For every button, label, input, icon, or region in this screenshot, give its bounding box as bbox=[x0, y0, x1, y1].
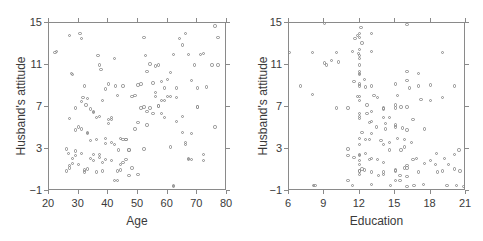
data-point bbox=[160, 112, 163, 115]
data-point bbox=[202, 52, 205, 55]
data-point bbox=[443, 157, 446, 160]
data-point bbox=[441, 51, 444, 54]
data-point bbox=[364, 152, 367, 155]
x-tick-top bbox=[430, 18, 431, 22]
data-point bbox=[351, 50, 354, 53]
x-tick-label: 9 bbox=[320, 197, 326, 209]
data-point bbox=[163, 116, 166, 119]
x-tick-bottom bbox=[288, 190, 289, 194]
data-point bbox=[436, 170, 439, 173]
data-point bbox=[394, 169, 397, 172]
data-point bbox=[364, 138, 367, 141]
x-tick-label: 21 bbox=[459, 197, 471, 209]
data-point bbox=[71, 73, 74, 76]
data-point bbox=[80, 37, 83, 40]
data-point bbox=[405, 128, 408, 131]
data-point bbox=[101, 169, 104, 172]
data-point bbox=[169, 95, 172, 98]
data-point bbox=[358, 137, 361, 140]
data-point bbox=[95, 170, 98, 173]
data-point bbox=[119, 168, 122, 171]
data-point bbox=[388, 141, 391, 144]
x-tick-bottom bbox=[196, 190, 197, 194]
data-point bbox=[148, 62, 151, 65]
y-tick-right bbox=[226, 148, 230, 149]
data-point bbox=[462, 185, 464, 188]
data-point bbox=[213, 125, 216, 128]
y-tick-left bbox=[284, 148, 288, 149]
data-point bbox=[384, 122, 387, 125]
data-point bbox=[415, 157, 418, 160]
x-tick-label: 12 bbox=[353, 197, 365, 209]
data-point bbox=[116, 179, 119, 182]
data-point bbox=[104, 158, 107, 161]
data-point bbox=[83, 170, 86, 173]
data-point bbox=[81, 96, 84, 99]
data-point bbox=[388, 148, 391, 151]
data-point bbox=[405, 105, 408, 108]
data-point bbox=[417, 170, 420, 173]
data-point bbox=[403, 145, 406, 148]
data-point bbox=[101, 99, 104, 102]
data-point bbox=[447, 163, 450, 166]
x-axis-title-age: Age bbox=[126, 214, 147, 228]
data-point bbox=[358, 163, 361, 166]
data-point bbox=[113, 143, 116, 146]
data-point bbox=[151, 81, 154, 84]
data-point bbox=[136, 173, 139, 176]
data-point bbox=[210, 63, 213, 66]
data-point bbox=[144, 54, 147, 57]
x-tick-label: 60 bbox=[161, 197, 173, 209]
y-tick-label: −1 bbox=[20, 184, 42, 196]
data-point bbox=[358, 36, 361, 39]
data-point bbox=[408, 86, 411, 89]
y-tick-left bbox=[44, 148, 48, 149]
x-tick-label: 40 bbox=[101, 197, 113, 209]
y-tick-left bbox=[284, 190, 288, 191]
data-point bbox=[365, 103, 368, 106]
y-axis-title-education: Husband's attitude bbox=[256, 56, 270, 155]
data-point bbox=[363, 78, 366, 81]
data-point bbox=[55, 50, 58, 53]
data-point bbox=[455, 184, 458, 187]
data-point bbox=[365, 112, 368, 115]
data-point bbox=[429, 83, 432, 86]
data-point bbox=[358, 48, 361, 51]
y-tick-left bbox=[44, 22, 48, 23]
data-point bbox=[190, 158, 193, 161]
y-tick-right bbox=[465, 106, 469, 107]
y-tick-label: 15 bbox=[260, 16, 282, 28]
data-point bbox=[116, 169, 119, 172]
data-point bbox=[358, 84, 361, 87]
data-point bbox=[311, 51, 314, 54]
data-point bbox=[74, 149, 77, 152]
data-point bbox=[151, 112, 154, 115]
x-tick-label: 18 bbox=[423, 197, 435, 209]
x-tick-bottom bbox=[107, 190, 108, 194]
x-tick-bottom bbox=[48, 190, 49, 194]
data-point bbox=[104, 87, 107, 90]
data-point bbox=[352, 80, 355, 83]
data-point bbox=[205, 85, 208, 88]
data-point bbox=[104, 142, 107, 145]
data-point bbox=[370, 32, 373, 35]
y-tick-right bbox=[465, 148, 469, 149]
data-point bbox=[358, 173, 361, 176]
data-point bbox=[181, 43, 184, 46]
data-point bbox=[67, 152, 70, 155]
data-point bbox=[370, 110, 373, 113]
data-points-education bbox=[289, 23, 464, 189]
data-point bbox=[398, 174, 401, 177]
x-tick-bottom bbox=[137, 190, 138, 194]
data-point bbox=[101, 161, 104, 164]
data-point bbox=[178, 37, 181, 40]
y-tick-right bbox=[226, 106, 230, 107]
data-point bbox=[405, 185, 408, 188]
data-point bbox=[145, 123, 148, 126]
data-point bbox=[133, 94, 136, 97]
data-point bbox=[299, 84, 302, 87]
data-point bbox=[184, 32, 187, 35]
y-tick-left bbox=[44, 106, 48, 107]
data-point bbox=[110, 159, 113, 162]
data-point bbox=[335, 106, 338, 109]
